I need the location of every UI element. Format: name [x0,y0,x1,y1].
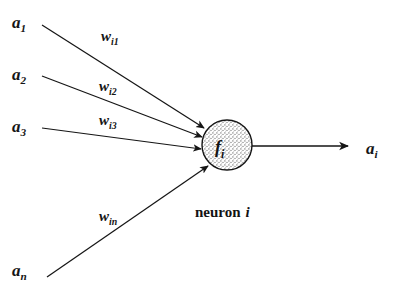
weight-sub-wi2: i2 [109,86,117,97]
input-base-a3: a [12,117,21,136]
neuron-body [202,120,252,170]
input-sub-a1: 1 [21,22,27,34]
weight-sub-win: in [109,216,117,227]
connection-a1 [42,25,204,128]
connection-a3 [42,128,201,149]
neuron-function-sub: i [221,147,224,161]
weight-label-wi1: wi1 [101,29,119,47]
input-label-a1: a1 [12,14,26,35]
connection-an [47,166,208,277]
input-label-a3: a3 [12,118,26,139]
input-sub-an: n [21,270,27,282]
input-base-a1: a [12,13,21,32]
weight-label-wi2: wi2 [99,79,117,97]
neuron-caption-word: neuron [195,204,241,220]
output-sub-ai: i [375,148,378,160]
weight-label-wi3: wi3 [99,113,117,131]
input-base-an: a [12,261,21,280]
weight-base-wi1: w [101,28,111,44]
weight-base-wi2: w [99,78,109,94]
diagram-canvas [0,0,399,300]
weight-label-win: win [99,209,117,227]
input-sub-a3: 3 [21,126,27,138]
connection-a2 [42,76,202,137]
input-base-a2: a [12,65,21,84]
weight-base-win: w [99,208,109,224]
input-label-an: an [12,262,27,283]
weight-sub-wi1: i1 [111,36,119,47]
neuron-function-label: fi [215,138,224,160]
input-connections [42,25,208,277]
weight-sub-wi3: i3 [109,120,117,131]
output-base-ai: a [366,139,375,158]
neuron-caption: neuroni [195,205,250,220]
neuron-diagram: a1 a2 a3 an wi1 wi2 wi3 win fi neuroni a… [0,0,399,300]
output-label-ai: ai [366,140,378,161]
weight-base-wi3: w [99,112,109,128]
input-label-a2: a2 [12,66,26,87]
neuron-caption-index: i [246,204,250,220]
input-sub-a2: 2 [21,74,27,86]
